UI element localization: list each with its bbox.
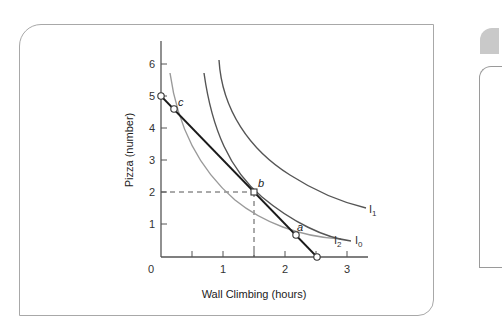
label-i1: I1 <box>369 203 377 218</box>
x-tick-3: 3 <box>344 263 350 275</box>
curve-i2 <box>170 73 341 239</box>
y-ticks <box>161 64 167 224</box>
y-tick-3: 3 <box>149 154 155 166</box>
point-c <box>171 106 177 112</box>
x-tick-0: 0 <box>148 263 154 275</box>
x-axis-title: Wall Climbing (hours) <box>202 288 307 300</box>
x-tick-1: 1 <box>220 263 226 275</box>
label-a: a <box>297 221 303 233</box>
point-y-intercept <box>158 93 164 99</box>
y-tick-5: 5 <box>149 90 155 102</box>
curve-i1 <box>219 60 366 208</box>
x-ticks <box>192 251 347 257</box>
label-c: c <box>178 96 184 108</box>
label-i0: I0 <box>355 234 363 249</box>
point-b <box>251 189 257 195</box>
x-tick-2: 2 <box>282 263 288 275</box>
y-tick-6: 6 <box>149 58 155 70</box>
point-x-intercept <box>314 254 320 260</box>
y-tick-4: 4 <box>149 122 155 134</box>
y-tick-2: 2 <box>149 186 155 198</box>
label-b: b <box>258 177 264 189</box>
y-tick-1: 1 <box>149 218 155 230</box>
y-axis-title: Pizza (number) <box>123 113 135 188</box>
label-i2: I2 <box>334 234 342 249</box>
